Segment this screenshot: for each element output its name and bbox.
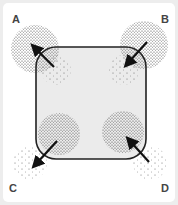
label-c: C xyxy=(9,182,17,194)
dense-cloud-c xyxy=(38,113,80,155)
label-d: D xyxy=(161,182,169,194)
diffusion-diagram xyxy=(0,0,178,205)
sparse-cloud-b xyxy=(109,55,139,85)
label-a: A xyxy=(12,13,20,25)
sparse-cloud-c xyxy=(13,146,47,180)
dense-cloud-d xyxy=(102,111,144,153)
label-b: B xyxy=(161,13,169,25)
